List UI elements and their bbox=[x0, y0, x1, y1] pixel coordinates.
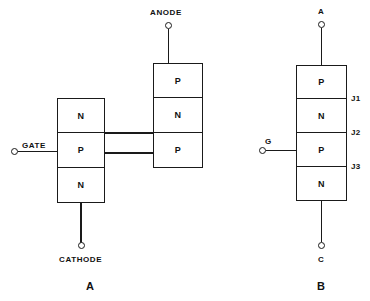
junction-label-j1: J1 bbox=[351, 94, 361, 103]
anode-terminal-b[interactable] bbox=[318, 21, 325, 28]
cathode-lead-b bbox=[321, 201, 323, 242]
gate-label-b: G bbox=[265, 137, 272, 146]
caption-b: B bbox=[317, 280, 325, 292]
junction-label-j2: J2 bbox=[351, 128, 361, 137]
crosslink-wire-upper bbox=[104, 132, 154, 134]
crosslink-wire-lower bbox=[104, 152, 154, 154]
cathode-label-a: CATHODE bbox=[59, 255, 102, 264]
gate-terminal-b[interactable] bbox=[259, 147, 266, 154]
anode-label-b: A bbox=[318, 7, 324, 16]
figure-canvas: ANODE P N P N P N GATE CATHODE A A P N P… bbox=[0, 0, 370, 301]
cathode-lead-a bbox=[80, 203, 82, 243]
caption-a: A bbox=[86, 280, 94, 292]
block-a-right-p-bottom: P bbox=[153, 133, 203, 168]
gate-label-a: GATE bbox=[22, 141, 46, 150]
block-b-n-bottom: N bbox=[296, 167, 347, 201]
block-b-p-top: P bbox=[296, 65, 347, 99]
anode-lead-b bbox=[321, 28, 323, 65]
junction-label-j3: J3 bbox=[351, 162, 361, 171]
gate-terminal-a[interactable] bbox=[11, 148, 18, 155]
anode-lead-a bbox=[168, 29, 170, 63]
block-a-left-n-bottom: N bbox=[57, 168, 105, 203]
cathode-label-b: C bbox=[318, 255, 324, 264]
block-a-right-p-top: P bbox=[153, 63, 203, 98]
block-a-left-n-top: N bbox=[57, 98, 105, 133]
block-a-left-p: P bbox=[57, 133, 105, 168]
block-b-p-lower: P bbox=[296, 133, 347, 167]
cathode-terminal-b[interactable] bbox=[318, 242, 325, 249]
gate-lead-a bbox=[18, 151, 57, 153]
block-a-right-n: N bbox=[153, 98, 203, 133]
anode-label-a: ANODE bbox=[150, 8, 182, 17]
anode-terminal-a[interactable] bbox=[165, 22, 172, 29]
cathode-terminal-a[interactable] bbox=[78, 242, 85, 249]
gate-lead-b bbox=[266, 150, 296, 152]
block-b-n-upper: N bbox=[296, 99, 347, 133]
